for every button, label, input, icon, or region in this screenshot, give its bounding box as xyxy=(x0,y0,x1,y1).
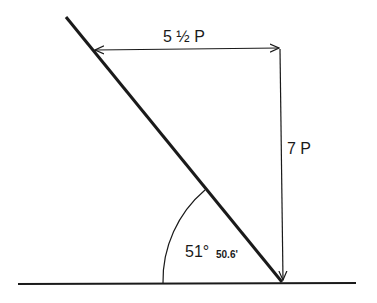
ground-line xyxy=(18,283,356,284)
vertical-dimension-arrow xyxy=(280,49,283,280)
horizontal-dimension-label: 5 ½ P xyxy=(163,28,205,46)
angle-degrees-label: 51° xyxy=(185,243,209,261)
angle-arc xyxy=(163,190,205,283)
horizontal-dimension-arrow xyxy=(95,48,279,50)
vertical-dimension-label: 7 P xyxy=(287,140,311,158)
inclined-line xyxy=(66,17,282,282)
angle-minutes-label: 50.6' xyxy=(216,249,238,260)
